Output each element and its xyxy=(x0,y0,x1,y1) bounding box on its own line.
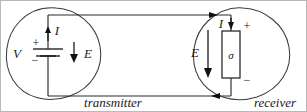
receiver-element-label: σ xyxy=(228,49,234,61)
circuit-canvas: V + − I E σ + − I E transmitter recei xyxy=(0,0,307,112)
transmitter-caption: transmitter xyxy=(84,95,143,110)
receiver-current-arrow-head xyxy=(228,22,234,30)
transmitter-source-label: V xyxy=(13,46,23,61)
transmitter-current-label: I xyxy=(54,23,60,38)
transmitter-field-label: E xyxy=(83,46,92,61)
circuit-figure: V + − I E σ + − I E transmitter recei xyxy=(0,0,307,112)
transmitter-minus-sign: − xyxy=(32,53,39,67)
transmitter-field-arrow-head xyxy=(70,54,78,63)
receiver-caption: receiver xyxy=(254,95,297,110)
receiver-minus-sign: − xyxy=(244,73,251,87)
receiver-field-arrow-head xyxy=(204,68,212,78)
receiver-field-label: E xyxy=(190,45,199,60)
transmitter-plus-sign: + xyxy=(33,36,40,50)
transmitter-current-arrow-head xyxy=(45,26,51,33)
receiver-current-label: I xyxy=(218,16,224,31)
receiver-plus-sign: + xyxy=(244,19,251,33)
